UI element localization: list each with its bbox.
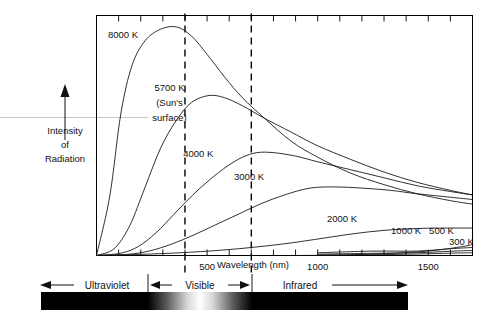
blackbody-radiation-figure: Intensity of Radiation 8000 K5700 K(Sun'… bbox=[0, 0, 487, 321]
annotation-1000-k: 1000 K bbox=[391, 225, 422, 236]
visible-arrow-head-left-icon bbox=[150, 281, 160, 289]
x-tick-label-1000: 1000 bbox=[307, 261, 328, 272]
annotation-500-k: 500 K bbox=[429, 225, 454, 236]
blackbody-curves-group bbox=[97, 26, 473, 255]
curve-annotations-group: 8000 K5700 K(Sun'ssurface)4000 K3000 K20… bbox=[108, 29, 475, 247]
spectrum-label-infrared-group: Infrared bbox=[283, 280, 408, 291]
annotation-3000-k: 3000 K bbox=[234, 171, 265, 182]
annotation--sun-s: (Sun's bbox=[156, 97, 183, 108]
curve-8000-k bbox=[97, 26, 473, 255]
spectrum-label-infrared: Infrared bbox=[283, 280, 317, 291]
annotation-4000-k: 4000 K bbox=[183, 148, 214, 159]
visible-arrow-head-right-icon bbox=[240, 281, 250, 289]
axis-ticks-group bbox=[97, 16, 451, 256]
uv-arrow-head-icon bbox=[40, 281, 51, 289]
x-tick-label-500: 500 bbox=[199, 261, 215, 272]
spectrum-label-ultraviolet-group: Ultraviolet bbox=[40, 280, 129, 291]
spectrum-label-visible: Visible bbox=[185, 280, 215, 291]
spectrum-label-ultraviolet: Ultraviolet bbox=[85, 280, 130, 291]
spectrum-label-visible-group: Visible bbox=[150, 280, 250, 291]
y-axis-label-line-2: of bbox=[61, 139, 69, 150]
y-axis-arrow-head-icon bbox=[61, 84, 70, 97]
annotation-surface-: surface) bbox=[152, 112, 186, 123]
spectrum-band-infrared bbox=[252, 292, 408, 310]
y-axis-label-group: Intensity of Radiation bbox=[45, 84, 85, 164]
annotation-300-k: 300 K bbox=[449, 236, 474, 247]
spectrum-band-ultraviolet bbox=[41, 292, 148, 310]
ir-arrow-head-icon bbox=[397, 281, 408, 289]
annotation-5700-k: 5700 K bbox=[154, 82, 185, 93]
annotation-8000-k: 8000 K bbox=[108, 29, 139, 40]
x-axis-title: Wavelength (nm) bbox=[217, 259, 289, 270]
x-tick-label-1500: 1500 bbox=[418, 261, 439, 272]
annotation-2000-k: 2000 K bbox=[327, 213, 358, 224]
curve-3000-k bbox=[97, 187, 473, 256]
y-axis-label-line-1: Intensity bbox=[47, 125, 83, 136]
spectrum-bar-group: Ultraviolet Visible Infrared bbox=[40, 274, 408, 310]
spectrum-band-visible bbox=[148, 292, 252, 310]
figure-svg: Intensity of Radiation 8000 K5700 K(Sun'… bbox=[0, 0, 487, 321]
y-axis-label-line-3: Radiation bbox=[45, 153, 85, 164]
